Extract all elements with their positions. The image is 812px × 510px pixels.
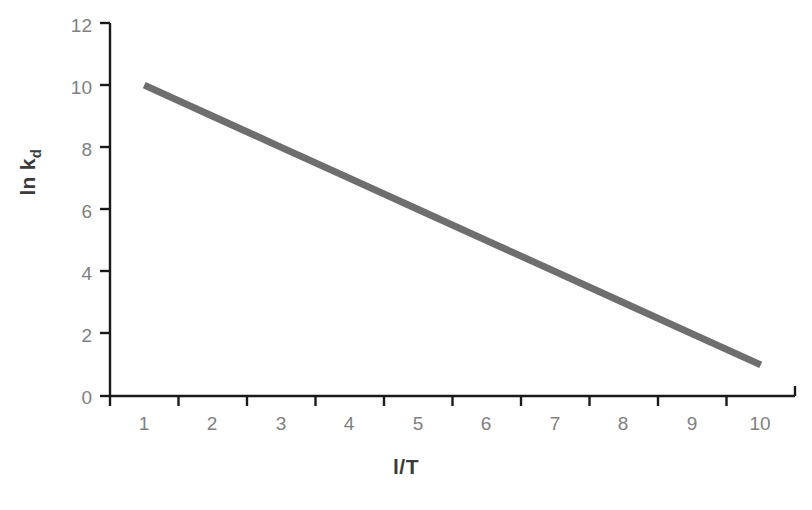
plot-area — [0, 0, 812, 510]
y-axis-ticks — [100, 23, 110, 396]
data-series-line — [144, 85, 761, 365]
chart-canvas: ln kd l/T 12 10 8 6 4 2 0 1 2 3 4 5 6 7 … — [0, 0, 812, 510]
series-polyline — [144, 85, 761, 365]
